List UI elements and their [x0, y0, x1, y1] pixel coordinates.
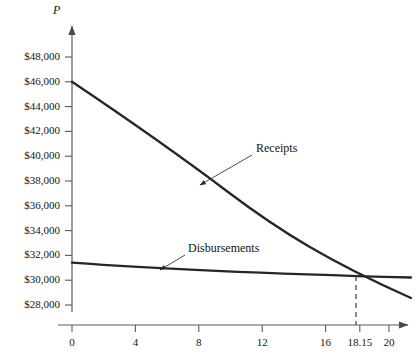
y-tick-label: $30,000: [0, 273, 60, 285]
y-tick-label: $40,000: [0, 149, 60, 161]
x-tick-label: 20: [369, 336, 409, 348]
y-tick-label: $46,000: [0, 75, 60, 87]
breakeven-chart: P $48,000 $46,000 $44,000 $42,000 $40,00…: [0, 0, 419, 359]
y-tick-label: $44,000: [0, 100, 60, 112]
y-axis-title: P: [53, 3, 60, 18]
y-tick-label: $32,000: [0, 248, 60, 260]
x-axis-ticks: [72, 325, 389, 332]
y-axis: [65, 26, 72, 312]
y-tick-label: $38,000: [0, 174, 60, 186]
y-axis-ticks: [65, 57, 72, 305]
receipts-series-label: Receipts: [256, 141, 297, 156]
x-axis: [58, 325, 408, 332]
x-tick-label: 8: [179, 336, 219, 348]
y-tick-label: $28,000: [0, 298, 60, 310]
y-tick-label: $36,000: [0, 199, 60, 211]
x-tick-label: 4: [115, 336, 155, 348]
x-tick-label: 12: [242, 336, 282, 348]
x-tick-label: 0: [52, 336, 92, 348]
y-tick-label: $34,000: [0, 224, 60, 236]
y-tick-label: $48,000: [0, 50, 60, 62]
receipts-leader-line: [200, 155, 252, 185]
disbursements-series-label: Disbursements: [188, 241, 259, 256]
plot-area: [0, 0, 419, 359]
series-line-disbursements: [72, 263, 411, 278]
y-tick-label: $42,000: [0, 124, 60, 136]
